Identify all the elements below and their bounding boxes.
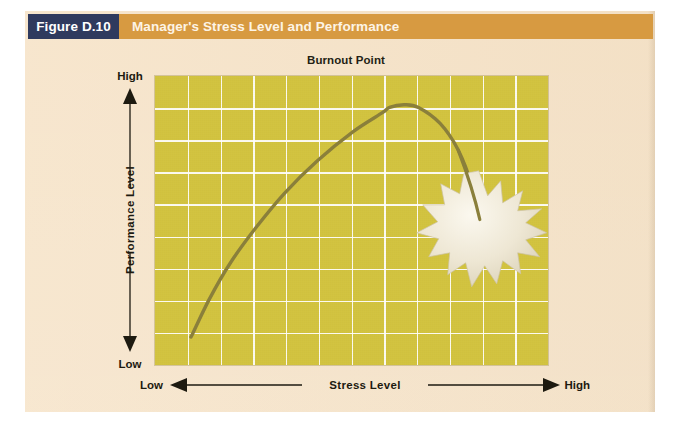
figure-root: Figure D.10 Manager's Stress Level and P… (0, 0, 673, 434)
figure-title: Manager's Stress Level and Performance (119, 14, 653, 39)
x-axis: Low High Stress Level (140, 376, 590, 398)
burnout-starburst-icon (417, 171, 547, 287)
y-axis: High Low Performance Level (108, 70, 152, 370)
performance-curve-svg (155, 76, 548, 365)
plot-area (155, 76, 548, 365)
x-axis-arrows (140, 376, 590, 398)
panel-edge-shadow (648, 11, 655, 412)
y-axis-arrows (108, 70, 152, 370)
burnout-point-annotation: Burnout Point (286, 54, 406, 66)
figure-title-bar: Figure D.10 Manager's Stress Level and P… (28, 14, 653, 39)
figure-number-tag: Figure D.10 (28, 14, 119, 39)
